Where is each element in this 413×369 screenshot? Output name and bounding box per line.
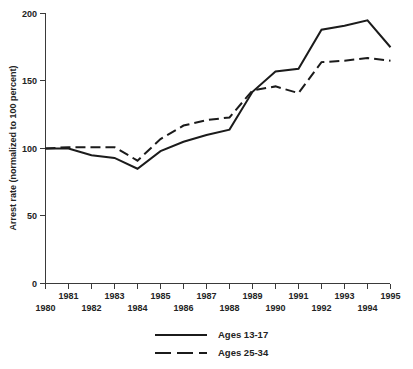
x-tick-label-1980: 1980 <box>35 303 55 313</box>
figure-caption-fragment <box>0 360 413 369</box>
x-tick-label-1993: 1993 <box>334 291 354 301</box>
x-tick-label-1986: 1986 <box>173 303 193 313</box>
y-tick-label-150: 150 <box>22 76 37 86</box>
legend-label-ages-25-34: Ages 25-34 <box>218 347 269 358</box>
x-tick-label-1988: 1988 <box>219 303 239 313</box>
y-axis-ticks <box>40 14 46 284</box>
y-axis-title: Arrest rate (normalized to 100 percent) <box>8 65 18 230</box>
line-chart: 200 150 100 50 0 Arrest rate (normalized… <box>0 0 413 369</box>
y-tick-label-0: 0 <box>32 279 37 289</box>
x-tick-label-1983: 1983 <box>104 291 124 301</box>
series-line-ages-25-34 <box>46 58 391 161</box>
x-tick-label-1982: 1982 <box>81 303 101 313</box>
x-axis-ticks <box>46 284 391 290</box>
x-tick-label-1991: 1991 <box>288 291 308 301</box>
chart-figure: 200 150 100 50 0 Arrest rate (normalized… <box>0 0 413 369</box>
x-tick-label-1987: 1987 <box>196 291 216 301</box>
legend-label-ages-13-17: Ages 13-17 <box>218 329 268 340</box>
x-axis-tick-labels: 1980 1981 1982 1983 1984 1985 1986 1987 … <box>35 291 400 313</box>
x-tick-label-1981: 1981 <box>58 291 78 301</box>
x-tick-label-1989: 1989 <box>242 291 262 301</box>
y-axis-tick-labels: 200 150 100 50 0 <box>22 9 37 289</box>
chart-legend: Ages 13-17 Ages 25-34 <box>155 329 269 358</box>
x-tick-label-1985: 1985 <box>150 291 170 301</box>
x-tick-label-1992: 1992 <box>311 303 331 313</box>
x-tick-label-1995: 1995 <box>380 291 400 301</box>
y-tick-label-50: 50 <box>27 211 37 221</box>
y-tick-label-100: 100 <box>22 144 37 154</box>
x-tick-label-1994: 1994 <box>357 303 377 313</box>
y-tick-label-200: 200 <box>22 9 37 19</box>
x-tick-label-1990: 1990 <box>265 303 285 313</box>
x-tick-label-1984: 1984 <box>127 303 147 313</box>
